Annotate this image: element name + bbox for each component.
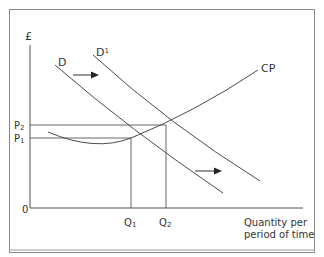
shift-arrow-lower [195,168,222,175]
x-axis-label-line2: period of time [244,229,314,240]
curve-label-d: D [58,56,66,69]
y-axis-label: £ [25,30,32,43]
demand-curve-d [55,65,223,193]
demand-shift-diagram: £ D D1 CP P2 P1 0 Q1 Q2 Quantity per per… [0,0,324,257]
quantity-label-q1: Q1 [124,217,136,229]
demand-curve-d1 [93,55,260,181]
x-axis-label-line1: Quantity per [244,217,308,228]
origin-label: 0 [22,204,28,215]
price-label-p2: P2 [14,120,25,132]
shift-arrow-upper [73,72,99,79]
curve-label-d1: D1 [96,46,109,59]
curve-label-cp: CP [261,62,276,75]
quantity-label-q2: Q2 [159,217,171,229]
cp-curve [48,70,258,144]
price-label-p1: P1 [14,133,25,145]
